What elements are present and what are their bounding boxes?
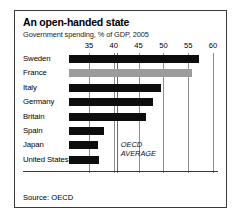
- oecd-average-line2: AVERAGE: [121, 149, 156, 158]
- bar-britain: [69, 113, 146, 121]
- bar-italy: [69, 84, 161, 92]
- x-tick-label-60: 60: [209, 41, 217, 50]
- bar-spain: [69, 127, 104, 135]
- bottom-divider: [23, 171, 218, 172]
- chart-title: An open-handed state: [23, 16, 129, 28]
- x-tick-label-35: 35: [85, 41, 93, 50]
- x-tick-label-55: 55: [184, 41, 192, 50]
- chart-figure: An open-handed state Government spending…: [14, 10, 227, 208]
- oecd-average-line1: OECD: [121, 140, 156, 149]
- category-label-sweden: Sweden: [23, 54, 51, 63]
- gridline-60: [213, 53, 214, 173]
- category-label-france: France: [23, 68, 47, 77]
- x-tick-label-40: 40: [110, 41, 118, 50]
- bar-sweden: [69, 55, 199, 63]
- category-label-britain: Britain: [23, 112, 44, 121]
- bar-france: [69, 69, 192, 77]
- bar-germany: [69, 98, 153, 106]
- category-label-germany: Germany: [23, 97, 54, 106]
- oecd-average-annotation: OECD AVERAGE: [121, 140, 156, 158]
- x-tick-label-50: 50: [159, 41, 167, 50]
- bar-japan: [69, 141, 98, 149]
- chart-subtitle: Government spending, % of GDP, 2005: [23, 30, 149, 39]
- category-label-italy: Italy: [23, 83, 37, 92]
- category-label-united-states: United States: [23, 155, 69, 164]
- category-label-spain: Spain: [23, 126, 42, 135]
- chart-source: Source: OECD: [23, 193, 73, 202]
- x-tick-label-45: 45: [134, 41, 142, 50]
- bar-united-states: [69, 156, 99, 164]
- category-label-japan: Japan: [23, 140, 44, 149]
